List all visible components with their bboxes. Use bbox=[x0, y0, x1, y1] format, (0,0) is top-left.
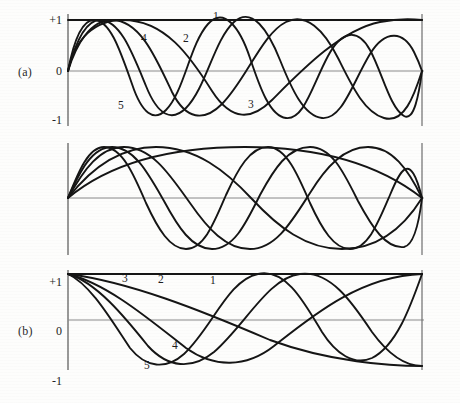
panel-c-plot bbox=[0, 262, 460, 387]
figure-root: (a) +1 0 -1 1 2 3 4 5 (b) +1 0 - bbox=[0, 0, 460, 403]
panel-a-curve-label-3: 3 bbox=[248, 98, 254, 110]
panel-a-curve-label-5: 5 bbox=[118, 99, 124, 111]
panel-a-ytick-plus1: +1 bbox=[36, 13, 62, 28]
panel-a-curve-label-2: 2 bbox=[183, 32, 189, 44]
panel-a-ytick-zero: 0 bbox=[36, 64, 62, 79]
panel-a-curve-label-1: 1 bbox=[213, 10, 219, 22]
panel-a-curve-label-4: 4 bbox=[141, 32, 147, 44]
panel-a-plot bbox=[0, 0, 460, 135]
panel-b: (b) +1 0 -1 1 2 3 4 5 bbox=[0, 133, 460, 265]
panel-a-ytick-minus1: -1 bbox=[36, 113, 62, 128]
panel-b-plot bbox=[0, 133, 460, 265]
panel-tag-a: (a) bbox=[18, 65, 32, 80]
panel-c: (c) +1 0 -1 0 2π 1 2 3 4 5 bbox=[0, 262, 460, 387]
panel-a: (a) +1 0 -1 1 2 3 4 5 bbox=[0, 0, 460, 135]
